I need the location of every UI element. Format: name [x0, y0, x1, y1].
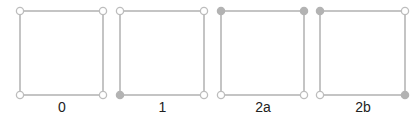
vertex-tr-filled-icon	[300, 7, 307, 14]
vertex-br-filled-icon	[401, 91, 408, 98]
vertex-tr-open-icon	[99, 7, 106, 14]
square-group-2a: 2a	[217, 7, 307, 115]
square-group-0: 0	[16, 7, 106, 115]
vertex-bl-open-icon	[16, 91, 23, 98]
vertex-bl-open-icon	[316, 91, 323, 98]
vertex-br-open-icon	[300, 91, 307, 98]
square-label: 0	[58, 99, 66, 115]
square-group-1: 1	[116, 7, 207, 115]
square-label: 2b	[355, 99, 371, 115]
vertex-tl-open-icon	[116, 7, 123, 14]
vertex-br-open-icon	[99, 91, 106, 98]
vertex-tl-filled-icon	[217, 7, 224, 14]
vertex-tl-filled-icon	[316, 7, 323, 14]
vertex-tr-open-icon	[200, 7, 207, 14]
vertex-bl-filled-icon	[116, 91, 123, 98]
square-outline	[221, 11, 304, 95]
square-outline	[120, 11, 204, 95]
diagram-canvas: 0 1 2a 2b	[0, 0, 419, 118]
vertex-br-open-icon	[200, 91, 207, 98]
square-outline	[20, 11, 103, 95]
square-label: 1	[159, 99, 167, 115]
square-label: 2a	[255, 99, 271, 115]
vertex-bl-open-icon	[217, 91, 224, 98]
square-group-2b: 2b	[316, 7, 408, 115]
vertex-tr-open-icon	[401, 7, 408, 14]
square-outline	[320, 11, 405, 95]
vertex-tl-open-icon	[16, 7, 23, 14]
